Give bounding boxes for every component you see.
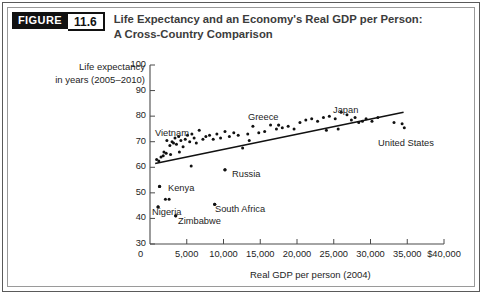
- scatter-point: [168, 198, 171, 201]
- scatter-point: [162, 150, 165, 153]
- scatter-point: [241, 147, 244, 150]
- scatter-point: [316, 120, 319, 123]
- point-annotation-label: Greece: [248, 112, 279, 122]
- scatter-point: [164, 198, 167, 201]
- scatter-point: [403, 126, 406, 129]
- point-annotation-label: United States: [378, 138, 434, 148]
- scatter-point: [401, 122, 404, 125]
- scatter-point: [328, 115, 331, 118]
- scatter-point: [169, 153, 172, 156]
- annotated-scatter-point: [277, 123, 280, 126]
- scatter-point: [219, 136, 222, 139]
- scatter-point: [310, 117, 313, 120]
- scatter-point: [188, 140, 191, 143]
- annotated-scatter-point: [223, 168, 226, 171]
- scatter-point: [190, 133, 193, 136]
- scatter-point: [172, 141, 175, 144]
- scatter-point: [232, 131, 235, 134]
- scatter-point: [204, 135, 207, 138]
- scatter-point: [175, 143, 178, 146]
- scatter-point: [198, 129, 201, 132]
- scatter-point: [195, 141, 198, 144]
- scatter-point: [248, 139, 251, 142]
- point-annotation-label: Zimbabwe: [178, 216, 221, 226]
- scatter-point: [287, 125, 290, 128]
- scatter-point: [165, 139, 168, 142]
- point-annotation-label: Russia: [232, 169, 260, 179]
- scatter-point: [251, 125, 254, 128]
- scatter-point: [354, 116, 357, 119]
- scatter-point: [193, 136, 196, 139]
- scatter-point: [304, 118, 307, 121]
- scatter-point: [215, 133, 218, 136]
- point-annotation-label: Japan: [333, 105, 358, 115]
- scatter-point: [228, 135, 231, 138]
- scatter-point: [263, 130, 266, 133]
- scatter-point: [281, 126, 284, 129]
- trend-line: [155, 112, 403, 163]
- scatter-point: [370, 120, 373, 123]
- point-annotation-label: Vietnam: [155, 128, 189, 138]
- scatter-point: [178, 150, 181, 153]
- scatter-point: [337, 127, 340, 130]
- point-annotation-label: South Africa: [215, 204, 265, 214]
- scatter-point: [182, 145, 185, 148]
- scatter-point: [322, 116, 325, 119]
- scatter-point: [162, 154, 165, 157]
- scatter-point: [393, 121, 396, 124]
- scatter-point: [334, 117, 337, 120]
- scatter-point: [223, 130, 226, 133]
- annotated-scatter-point: [158, 185, 161, 188]
- scatter-point: [208, 134, 211, 137]
- scatter-point: [246, 133, 249, 136]
- scatter-point: [350, 118, 353, 121]
- scatter-point: [184, 138, 187, 141]
- scatter-point: [179, 139, 182, 142]
- scatter-point: [257, 131, 260, 134]
- scatter-point: [190, 165, 193, 168]
- point-annotation-label: Kenya: [168, 183, 194, 193]
- figure-root: FIGURE 11.6 Life Expectancy and an Econo…: [0, 0, 482, 294]
- scatter-point: [168, 144, 171, 147]
- scatter-point: [269, 124, 272, 127]
- scatter-point: [293, 127, 296, 130]
- scatter-point: [201, 138, 204, 141]
- scatter-point: [212, 138, 215, 141]
- scatter-point: [275, 127, 278, 130]
- scatter-point: [237, 134, 240, 137]
- scatter-point: [298, 121, 301, 124]
- scatter-chart: Life expectancy in years (2005–2010) 100…: [0, 0, 482, 294]
